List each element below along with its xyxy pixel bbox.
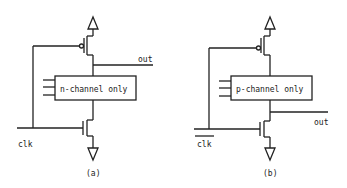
block-label: n-channel only [60, 85, 128, 94]
output-label: out [138, 55, 153, 64]
panel-b: p-channel only out clk (b) [194, 17, 329, 178]
circuit-figure: out n-channel only clk (a) [0, 0, 347, 188]
nmos-transistor [194, 121, 270, 137]
nmos-transistor [17, 120, 93, 136]
panel-caption: (b) [263, 169, 277, 178]
panel-a: out n-channel only clk (a) [17, 17, 153, 178]
vdd-icon [88, 17, 98, 29]
block-label: p-channel only [236, 85, 304, 94]
clock-label: clk [197, 140, 212, 149]
ground-icon [88, 148, 98, 160]
ground-icon [265, 148, 275, 160]
vdd-icon [265, 17, 275, 29]
clock-label: clk [18, 140, 33, 149]
panel-caption: (a) [86, 169, 100, 178]
pmos-transistor [209, 36, 270, 55]
output-label: out [314, 118, 329, 127]
pmos-transistor [33, 36, 93, 55]
